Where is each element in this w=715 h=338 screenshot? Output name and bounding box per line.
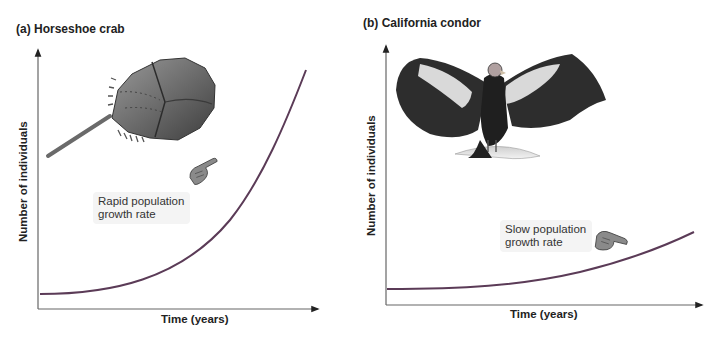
- panel-b-y-axis-label: Number of individuals: [365, 115, 377, 236]
- horseshoe-crab-illustration: [48, 58, 215, 156]
- callout-line: Rapid population: [98, 195, 184, 208]
- panel-a-y-axis-label: Number of individuals: [17, 121, 29, 242]
- callout-line: Slow population: [505, 223, 586, 236]
- panel-b-x-axis-label: Time (years): [510, 308, 578, 320]
- callout-line: growth rate: [98, 208, 184, 221]
- california-condor-illustration: [396, 54, 606, 159]
- pointing-hand-icon: [187, 158, 223, 186]
- panel-a-x-axis-label: Time (years): [161, 313, 229, 325]
- panel-a-callout: Rapid population growth rate: [93, 192, 190, 224]
- panel-b-callout: Slow population growth rate: [500, 220, 592, 252]
- callout-line: growth rate: [505, 236, 586, 249]
- figure-canvas: [0, 0, 715, 338]
- pointing-hand-icon: [593, 229, 629, 257]
